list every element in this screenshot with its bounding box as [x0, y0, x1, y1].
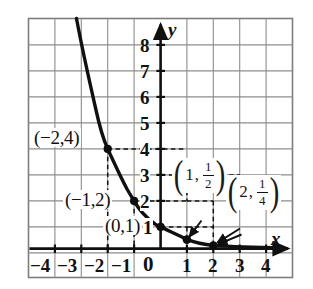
point-neg1-2[interactable] — [130, 197, 138, 205]
frac-label-two-x: 2 — [238, 182, 249, 202]
point-0-1[interactable] — [157, 223, 165, 231]
x-tick-1: 1 — [182, 256, 192, 275]
bracket-close-icon: ) — [269, 176, 279, 209]
x-tick-neg3: −3 — [57, 256, 77, 275]
frac-numerator: 1 — [257, 177, 268, 190]
bracket-close-icon: ) — [215, 159, 225, 192]
y-tick-3: 3 — [140, 166, 150, 185]
y-tick-1: 1 — [143, 218, 153, 237]
x-tick-neg4: −4 — [30, 256, 50, 275]
frac-label-two-comma: , — [249, 182, 256, 202]
x-tick-2: 2 — [208, 256, 218, 275]
x-axis-label: x — [271, 229, 281, 248]
x-tick-neg2: −2 — [84, 256, 104, 275]
x-tick-4: 4 — [261, 256, 271, 275]
bracket-open-icon: ( — [228, 176, 238, 209]
bracket-open-icon: ( — [174, 159, 184, 192]
x-tick-3: 3 — [235, 256, 245, 275]
x-tick-neg1: −1 — [111, 256, 131, 275]
fraction-one-half: 1 2 — [202, 160, 215, 190]
frac-denominator: 2 — [203, 177, 214, 190]
point-label-neg2-4: (−2,4) — [32, 128, 81, 147]
x-tick-zero: 0 — [143, 254, 154, 275]
point-2-quarter[interactable] — [209, 241, 218, 250]
frac-label-one-x: 1 — [184, 165, 195, 185]
point-label-0-1: (0,1) — [103, 216, 142, 235]
y-tick-4: 4 — [140, 140, 150, 159]
exponential-decay-graph-figure: 8 7 6 5 4 3 2 1 −4 −3 −2 −1 0 1 2 3 4 y … — [0, 0, 313, 289]
y-tick-2: 2 — [140, 192, 150, 211]
point-label-1-one-half: ( 1 , 1 2 ) — [172, 158, 227, 193]
frac-denominator: 4 — [257, 194, 268, 207]
y-tick-7: 7 — [140, 62, 150, 81]
y-tick-8: 8 — [140, 36, 150, 55]
y-tick-6: 6 — [140, 88, 150, 107]
point-label-2-one-quarter: ( 2 , 1 4 ) — [226, 175, 281, 210]
fraction-one-quarter: 1 4 — [256, 177, 269, 207]
y-tick-5: 5 — [140, 114, 150, 133]
point-label-neg1-2: (−1,2) — [63, 190, 112, 209]
point-neg2-4[interactable] — [104, 145, 112, 153]
y-axis-label: y — [168, 20, 176, 39]
frac-numerator: 1 — [203, 160, 214, 173]
frac-label-one-comma: , — [195, 165, 202, 185]
